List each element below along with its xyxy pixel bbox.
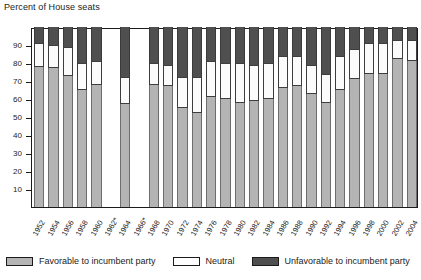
stacked-bar[interactable]: [292, 27, 302, 207]
bar-column[interactable]: [405, 29, 419, 207]
bar-column[interactable]: [89, 29, 103, 207]
x-tick-label: 1986: [275, 219, 290, 237]
bar-segment-favorable: [206, 97, 216, 207]
bar-column[interactable]: [390, 29, 404, 207]
bar-segment-neutral: [192, 77, 202, 113]
stacked-bar[interactable]: [235, 27, 245, 207]
x-tick-label: 1972: [175, 219, 190, 237]
bar-segment-neutral: [149, 63, 159, 85]
bar-segment-favorable: [392, 59, 402, 207]
bar-column[interactable]: [161, 29, 175, 207]
bar-segment-favorable: [91, 85, 101, 207]
x-tick-label: 1970: [161, 219, 176, 237]
y-tick-label: 40: [13, 132, 22, 140]
bar-segment-favorable: [407, 61, 417, 207]
bar-segment-favorable: [77, 90, 87, 207]
stacked-bar[interactable]: [392, 27, 402, 207]
bar-column[interactable]: [347, 29, 361, 207]
stacked-bar[interactable]: [249, 27, 259, 207]
x-tick-label: 1962*: [103, 217, 120, 238]
stacked-bar[interactable]: [364, 27, 374, 207]
bar-column[interactable]: [190, 29, 204, 207]
y-tick-label: 10: [13, 186, 22, 194]
bar-column[interactable]: [233, 29, 247, 207]
bar-column[interactable]: [376, 29, 390, 207]
y-tick-label: 20: [13, 168, 22, 176]
x-tick-label: 1958: [75, 219, 90, 237]
stacked-bar[interactable]: [91, 27, 101, 207]
legend-item[interactable]: Neutral: [173, 256, 235, 266]
stacked-bar[interactable]: [349, 27, 359, 207]
x-tick-label: 1996: [347, 219, 362, 237]
stacked-bar[interactable]: [378, 27, 388, 207]
bar-segment-neutral: [249, 65, 259, 101]
stacked-bar[interactable]: [220, 27, 230, 207]
x-tick-label: 1994: [333, 219, 348, 237]
bar-segment-unfavorable: [306, 27, 316, 65]
x-tick-label: 2004: [404, 219, 419, 237]
bar-column[interactable]: [118, 29, 132, 207]
bar-segment-neutral: [34, 43, 44, 66]
stacked-bar[interactable]: [306, 27, 316, 207]
plot-area: [31, 28, 418, 208]
bar-segment-unfavorable: [77, 27, 87, 63]
bar-column[interactable]: [290, 29, 304, 207]
stacked-bar[interactable]: [407, 27, 417, 207]
bar-column[interactable]: [204, 29, 218, 207]
stacked-bar[interactable]: [263, 27, 273, 207]
stacked-bar[interactable]: [206, 27, 216, 207]
stacked-bar[interactable]: [48, 27, 58, 207]
bar-segment-unfavorable: [321, 27, 331, 74]
bar-segment-neutral: [292, 56, 302, 87]
legend-label: Neutral: [206, 256, 235, 266]
stacked-bar[interactable]: [120, 27, 130, 207]
bar-column[interactable]: [147, 29, 161, 207]
bar-segment-neutral: [120, 77, 130, 104]
bar-column[interactable]: [175, 29, 189, 207]
stacked-bar[interactable]: [321, 27, 331, 207]
legend-swatch-unf: [252, 257, 279, 266]
bar-segment-unfavorable: [364, 27, 374, 43]
bar-column[interactable]: [218, 29, 232, 207]
bar-segment-neutral: [220, 63, 230, 99]
x-tick-label: 1978: [218, 219, 233, 237]
bar-column[interactable]: [61, 29, 75, 207]
bar-column[interactable]: [104, 29, 118, 207]
bar-column[interactable]: [247, 29, 261, 207]
x-tick-label: 1952: [32, 219, 47, 237]
x-tick-label: 2000: [376, 219, 391, 237]
x-tick-label: 1980: [232, 219, 247, 237]
stacked-bar[interactable]: [177, 27, 187, 207]
stacked-bar[interactable]: [34, 27, 44, 207]
bar-column[interactable]: [132, 29, 146, 207]
bar-column[interactable]: [319, 29, 333, 207]
stacked-bar[interactable]: [163, 27, 173, 207]
bar-segment-unfavorable: [407, 27, 417, 40]
bar-column[interactable]: [261, 29, 275, 207]
bar-column[interactable]: [333, 29, 347, 207]
legend-item[interactable]: Favorable to incumbent party: [6, 256, 156, 266]
stacked-bar[interactable]: [335, 27, 345, 207]
stacked-bar[interactable]: [63, 27, 73, 207]
bar-column[interactable]: [362, 29, 376, 207]
bar-segment-neutral: [392, 40, 402, 60]
stacked-bar[interactable]: [192, 27, 202, 207]
x-tick-label: 1974: [189, 219, 204, 237]
stacked-bar[interactable]: [278, 27, 288, 207]
legend-item[interactable]: Unfavorable to incumbent party: [252, 256, 410, 266]
bar-segment-neutral: [321, 74, 331, 103]
stacked-bar[interactable]: [77, 27, 87, 207]
bar-segment-favorable: [335, 90, 345, 207]
bar-column[interactable]: [46, 29, 60, 207]
bar-segment-neutral: [163, 65, 173, 87]
x-tick-label: 1988: [290, 219, 305, 237]
bar-column[interactable]: [276, 29, 290, 207]
bar-segment-neutral: [278, 56, 288, 88]
bar-segment-neutral: [63, 47, 73, 76]
bar-column[interactable]: [32, 29, 46, 207]
bar-segment-favorable: [192, 113, 202, 207]
bar-column[interactable]: [75, 29, 89, 207]
stacked-bar[interactable]: [149, 27, 159, 207]
bar-column[interactable]: [304, 29, 318, 207]
bar-segment-neutral: [378, 43, 388, 74]
